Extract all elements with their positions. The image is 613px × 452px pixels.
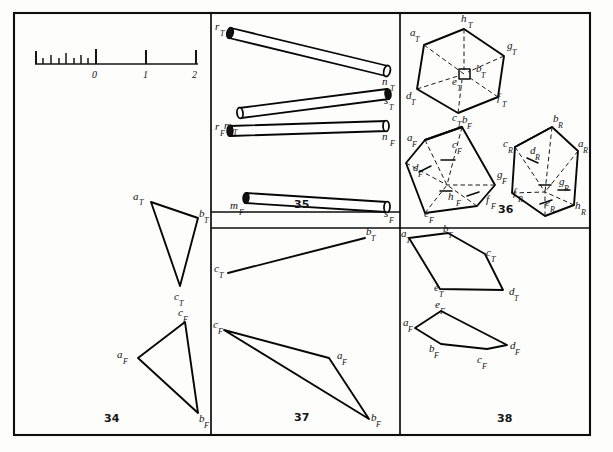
vertex-label-m-f: m F <box>230 199 244 217</box>
vertex-subscript: T <box>411 98 416 107</box>
cube-hidden-edge <box>468 56 504 72</box>
pentagon-top-view <box>409 233 503 290</box>
vertex-letter: n <box>382 75 388 87</box>
vertex-subscript: R <box>534 153 540 162</box>
panel-number-36: 36 <box>498 203 514 216</box>
vertex-label-e-f-36: e F <box>424 207 434 225</box>
vertex-subscript: F <box>375 420 381 429</box>
vertex-label-g-f-36: g F <box>497 168 507 186</box>
vertex-label-a-t-36: a T <box>410 26 420 44</box>
vertex-subscript: R <box>563 184 569 193</box>
vertex-letter: n <box>382 130 388 142</box>
worksheet-drawing: panel-34 0 1 2 a T b T c T a F b F <box>0 0 613 452</box>
cube-hidden-edge <box>447 127 462 185</box>
rod-r-n-top <box>226 27 392 77</box>
line-top-view <box>228 238 365 273</box>
vertex-label-g-t-36: g T <box>507 39 517 57</box>
vertex-label-c-r-36: c R <box>503 137 513 155</box>
cube-hidden-edge <box>424 45 464 74</box>
vertex-label-a-t-38: a T <box>401 227 411 245</box>
vertex-label-c-t-38: c T <box>486 246 496 264</box>
vertex-letter: m <box>230 199 238 211</box>
vertex-subscript: T <box>491 255 496 264</box>
rod-r-n-front <box>227 121 389 137</box>
vertex-letter: m <box>224 119 232 131</box>
vertex-subscript: F <box>455 199 461 208</box>
vertex-subscript: F <box>122 357 128 366</box>
vertex-subscript: F <box>466 122 472 131</box>
panel-35: r T n T m T s T r F n F m F s F <box>215 20 395 225</box>
panel-number-38: 38 <box>497 412 512 425</box>
vertex-subscript: T <box>502 100 507 109</box>
vertex-label-n-f: n F <box>382 130 395 148</box>
vertex-label-b-f: b F <box>199 412 209 430</box>
vertex-subscript: T <box>204 216 209 225</box>
vertex-label-b-f-38: b F <box>429 342 439 360</box>
vertex-subscript: T <box>468 21 473 30</box>
vertex-subscript: T <box>371 234 376 243</box>
vertex-label-e-t-38: e T <box>434 281 444 299</box>
rod-body <box>239 89 389 118</box>
vertex-label-b-f-37: b F <box>371 411 381 429</box>
ruler-label-one: 1 <box>143 69 148 80</box>
vertex-label-a-f: a F <box>117 348 128 366</box>
panel-37: c T b T c F a F b F 37 <box>213 225 381 429</box>
vertex-label-f-t-36: f T <box>497 91 507 109</box>
vertex-subscript: T <box>514 294 519 303</box>
vertex-label-a-f-37: a F <box>337 349 347 367</box>
vertex-label-e-t-36: e T <box>452 75 462 93</box>
vertex-subscript: T <box>481 71 486 80</box>
vertex-label-d-f-38: d F <box>510 339 520 357</box>
vertex-subscript: R <box>557 121 563 130</box>
vertex-label-d-t-38: d T <box>509 285 519 303</box>
cube-hidden-edge <box>512 192 545 193</box>
cube-hidden-edge <box>470 78 498 97</box>
rod-m-s-top <box>236 88 391 118</box>
vertex-subscript: F <box>219 129 225 138</box>
graphic-scale: panel-34 0 1 2 <box>35 49 198 80</box>
vertex-letter: h <box>461 12 467 24</box>
vertex-subscript: F <box>501 177 507 186</box>
vertex-subscript: T <box>219 271 224 280</box>
vertex-subscript: F <box>490 202 496 211</box>
cube-tick <box>467 192 479 196</box>
vertex-label-b-t: b T <box>199 207 209 225</box>
vertex-subscript: F <box>481 362 487 371</box>
vertex-label-a-f-36: a F <box>407 131 417 149</box>
panel-36: a T h T g T b T e T f T c T d T <box>406 12 588 225</box>
vertex-subscript: R <box>517 195 523 204</box>
vertex-subscript: T <box>139 198 144 207</box>
panel-34: a T b T c T a F b F c F 34 <box>104 190 209 430</box>
triangle-front-view <box>224 330 369 419</box>
vertex-subscript: F <box>238 208 244 217</box>
vertex-label-a-f-38: a F <box>403 316 413 334</box>
vertex-label-c-f-36: c F <box>452 138 462 156</box>
vertex-subscript: F <box>341 358 347 367</box>
vertex-subscript: R <box>582 146 588 155</box>
rod-body <box>229 28 388 76</box>
panel-38: a T b T c T d T e T a F b F c <box>401 222 520 425</box>
worksheet-sheet: panel-34 0 1 2 a T b T c T a F b F <box>0 0 613 452</box>
vertex-subscript: F <box>514 348 520 357</box>
vertex-subscript: F <box>411 140 417 149</box>
cube-hidden-edge <box>425 140 447 185</box>
vertex-label-b-t-36: b T <box>476 62 486 80</box>
vertex-label-e-r-36: e R <box>545 196 555 214</box>
vertex-subscript: F <box>407 325 413 334</box>
vertex-label-f-r-36: f R <box>513 186 523 204</box>
vertex-subscript: F <box>388 216 394 225</box>
vertex-label-c-f: c F <box>178 306 188 324</box>
vertex-subscript: T <box>448 231 453 240</box>
panel-number-34: 34 <box>104 412 120 425</box>
ruler-label-zero: 0 <box>92 69 97 80</box>
vertex-label-d-f-36: d F <box>413 161 423 179</box>
cube-hidden-edge <box>545 127 552 192</box>
triangle-top-view <box>151 202 198 286</box>
vertex-letter: s <box>384 207 388 219</box>
triangle-front-view <box>138 322 198 413</box>
vertex-subscript: T <box>415 35 420 44</box>
vertex-subscript: T <box>390 84 395 93</box>
vertex-subscript: T <box>457 84 462 93</box>
vertex-label-h-t-36: h T <box>461 12 473 30</box>
vertex-letter: s <box>384 94 388 106</box>
